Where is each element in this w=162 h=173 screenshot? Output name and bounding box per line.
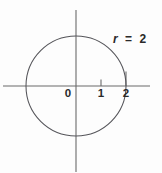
x-tick-label-1: 1 bbox=[98, 87, 105, 99]
polar-circle-figure: 0 1 2 r = 2 bbox=[0, 0, 162, 173]
curve-equation-label: r = 2 bbox=[113, 32, 146, 46]
plot-canvas: 0 1 2 r = 2 bbox=[0, 0, 162, 173]
x-tick-label-2: 2 bbox=[123, 87, 129, 99]
origin-label: 0 bbox=[65, 87, 71, 99]
curve-equation-value: 2 bbox=[139, 32, 146, 46]
curve-equation-operator: = bbox=[125, 32, 132, 46]
curve-equation-variable: r bbox=[113, 32, 119, 46]
